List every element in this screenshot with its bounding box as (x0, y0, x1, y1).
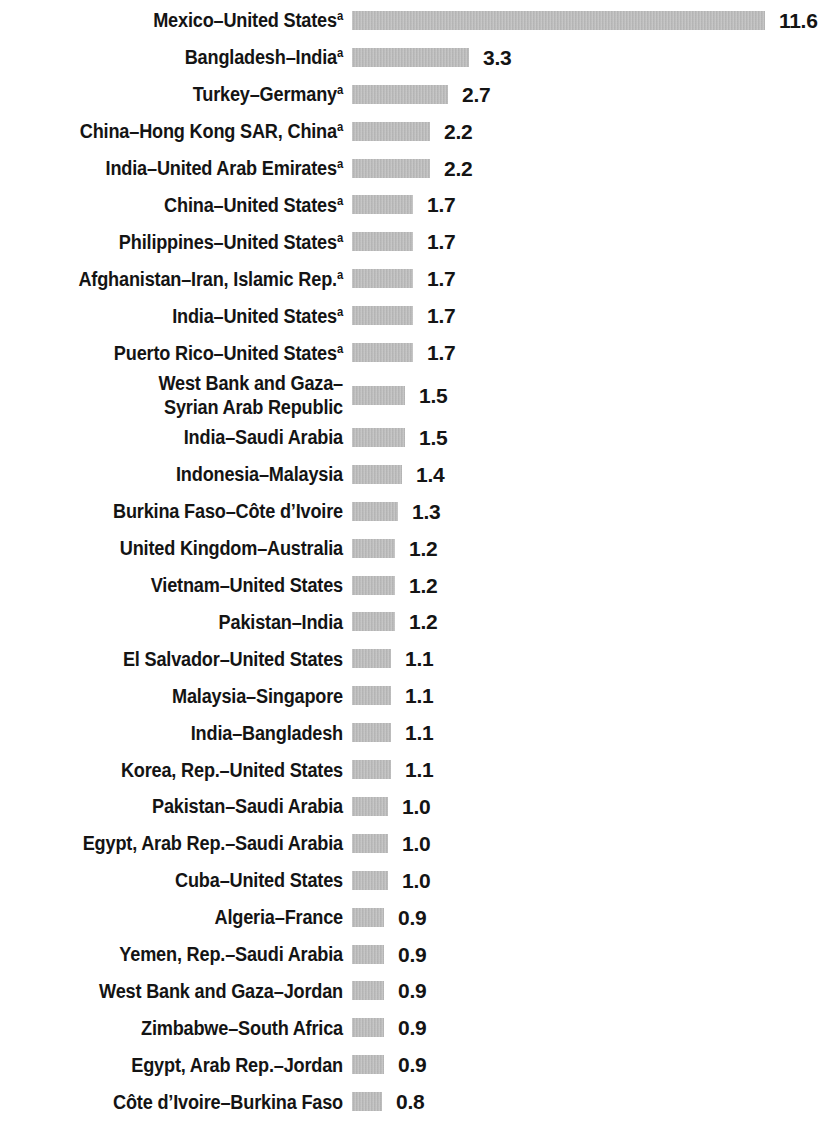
value-bar (352, 945, 384, 964)
corridor-label: Egypt, Arab Rep.–Jordan (24, 1053, 343, 1077)
footnote-marker: a (337, 157, 343, 171)
value-bar (352, 723, 391, 742)
bar-cell (352, 232, 413, 251)
value-bar (352, 159, 430, 178)
bar-cell (352, 85, 448, 104)
bar-cell (352, 159, 430, 178)
chart-row: India–United Arab Emiratesa2.2 (0, 150, 827, 187)
value-label: 1.2 (409, 575, 437, 596)
corridor-label: West Bank and Gaza–Jordan (24, 979, 343, 1003)
value-label: 1.5 (419, 427, 447, 448)
bar-cell (352, 649, 391, 668)
chart-row: West Bank and Gaza–Jordan0.9 (0, 973, 827, 1010)
corridor-label: El Salvador–United States (24, 647, 343, 671)
corridor-label: Afghanistan–Iran, Islamic Rep.a (24, 267, 343, 291)
chart-row: India–Saudi Arabia1.5 (0, 419, 827, 456)
corridor-label: Côte d’Ivoire–Burkina Faso (24, 1090, 343, 1114)
corridor-label: Philippines–United Statesa (24, 230, 343, 254)
value-bar (352, 539, 395, 558)
value-label: 1.1 (405, 685, 433, 706)
bar-cell (352, 343, 413, 362)
corridor-label: India–United Statesa (24, 304, 343, 328)
bar-cell (352, 11, 765, 30)
corridor-label: Mexico–United Statesa (24, 8, 343, 32)
chart-row: Pakistan–India1.2 (0, 604, 827, 641)
value-label: 1.7 (427, 342, 455, 363)
corridor-label: Egypt, Arab Rep.–Saudi Arabia (24, 831, 343, 855)
value-label: 0.9 (398, 980, 426, 1001)
bar-cell (352, 908, 384, 927)
bar-cell (352, 386, 405, 405)
bar-cell (352, 981, 384, 1000)
corridor-label: Pakistan–Saudi Arabia (24, 794, 343, 818)
value-bar (352, 1092, 382, 1111)
value-bar (352, 612, 395, 631)
chart-row: Philippines–United Statesa1.7 (0, 223, 827, 260)
footnote-marker: a (337, 46, 343, 60)
chart-row: Côte d’Ivoire–Burkina Faso0.8 (0, 1083, 827, 1120)
bar-cell (352, 1055, 384, 1074)
corridor-label: China–Hong Kong SAR, Chinaa (24, 119, 343, 143)
bar-cell (352, 502, 398, 521)
chart-row: Yemen, Rep.–Saudi Arabia0.9 (0, 936, 827, 973)
bar-cell (352, 1092, 382, 1111)
value-label: 1.2 (409, 538, 437, 559)
bar-cell (352, 306, 413, 325)
value-label: 1.1 (405, 648, 433, 669)
chart-row: El Salvador–United States1.1 (0, 640, 827, 677)
value-bar (352, 760, 391, 779)
corridor-label: West Bank and Gaza– Syrian Arab Republic (24, 371, 343, 419)
corridor-label: Zimbabwe–South Africa (24, 1016, 343, 1040)
bar-cell (352, 834, 388, 853)
footnote-marker: a (337, 230, 343, 244)
value-label: 3.3 (483, 47, 511, 68)
value-label: 1.7 (427, 305, 455, 326)
bar-cell (352, 465, 402, 484)
value-bar (352, 797, 388, 816)
value-bar (352, 85, 448, 104)
chart-row: Burkina Faso–Côte d’Ivoire1.3 (0, 493, 827, 530)
bar-cell (352, 48, 469, 67)
value-label: 2.7 (462, 84, 490, 105)
corridor-label: India–Bangladesh (24, 721, 343, 745)
value-label: 0.9 (398, 907, 426, 928)
corridor-label: China–United Statesa (24, 193, 343, 217)
corridor-label: Korea, Rep.–United States (24, 758, 343, 782)
corridor-label: Yemen, Rep.–Saudi Arabia (24, 942, 343, 966)
value-bar (352, 465, 402, 484)
bar-cell (352, 1018, 384, 1037)
value-bar (352, 122, 430, 141)
footnote-marker: a (337, 341, 343, 355)
value-label: 0.9 (398, 944, 426, 965)
footnote-marker: a (337, 193, 343, 207)
value-label: 1.0 (402, 870, 430, 891)
chart-row: United Kingdom–Australia1.2 (0, 530, 827, 567)
chart-row: Indonesia–Malaysia1.4 (0, 456, 827, 493)
value-label: 0.9 (398, 1017, 426, 1038)
value-bar (352, 232, 413, 251)
value-bar (352, 908, 384, 927)
value-bar (352, 981, 384, 1000)
value-label: 1.7 (427, 268, 455, 289)
corridor-label: Cuba–United States (24, 868, 343, 892)
value-bar (352, 502, 398, 521)
chart-row: China–Hong Kong SAR, Chinaa2.2 (0, 113, 827, 150)
chart-row: India–United Statesa1.7 (0, 297, 827, 334)
footnote-marker: a (337, 120, 343, 134)
bar-cell (352, 797, 388, 816)
value-label: 1.1 (405, 759, 433, 780)
bar-cell (352, 122, 430, 141)
chart-row: Egypt, Arab Rep.–Jordan0.9 (0, 1046, 827, 1083)
value-label: 1.0 (402, 796, 430, 817)
value-bar (352, 1018, 384, 1037)
value-bar (352, 686, 391, 705)
value-label: 1.7 (427, 194, 455, 215)
value-bar (352, 343, 413, 362)
bar-cell (352, 760, 391, 779)
value-label: 11.6 (779, 10, 818, 31)
chart-row: Cuba–United States1.0 (0, 862, 827, 899)
chart-row: West Bank and Gaza– Syrian Arab Republic… (0, 371, 827, 419)
value-label: 0.8 (396, 1091, 424, 1112)
bar-cell (352, 428, 405, 447)
footnote-marker: a (337, 304, 343, 318)
